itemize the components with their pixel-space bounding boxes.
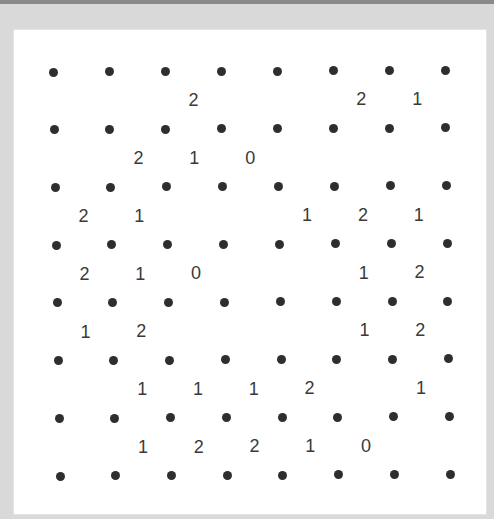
puzzle-cell[interactable]: 1: [183, 377, 213, 401]
puzzle-cell[interactable]: 2: [126, 319, 156, 343]
puzzle-cell[interactable]: 2: [68, 204, 98, 228]
puzzle-cell[interactable]: [291, 145, 321, 169]
grid-dot: [334, 470, 343, 479]
grid-dot: [388, 297, 397, 306]
puzzle-cell[interactable]: 2: [184, 435, 214, 459]
grid-dot: [390, 470, 399, 479]
grid-dot: [386, 181, 395, 190]
puzzle-cell[interactable]: [66, 89, 96, 113]
grid-dot: [50, 125, 59, 134]
puzzle-cell[interactable]: 2: [346, 87, 376, 111]
grid-dot: [219, 240, 228, 249]
grid-dot: [164, 298, 173, 307]
puzzle-cell[interactable]: 2: [294, 376, 324, 400]
puzzle-cell[interactable]: 0: [181, 261, 211, 285]
grid-dot: [222, 413, 231, 422]
grid-dot: [442, 181, 451, 190]
grid-dot: [332, 297, 341, 306]
puzzle-cell[interactable]: [180, 204, 210, 228]
puzzle-cell[interactable]: [182, 319, 212, 343]
puzzle-cell[interactable]: [237, 261, 267, 285]
grid-dot: [385, 124, 394, 133]
grid-dot: [109, 356, 118, 365]
puzzle-cell[interactable]: 1: [70, 320, 100, 344]
puzzle-cell[interactable]: [407, 434, 437, 458]
grid-dot: [49, 68, 58, 77]
grid-dot: [105, 67, 114, 76]
puzzle-board[interactable]: 221210211212101212121112112210: [14, 30, 486, 514]
puzzle-cell[interactable]: [403, 145, 433, 169]
puzzle-cell[interactable]: 1: [406, 376, 436, 400]
puzzle-cell[interactable]: 2: [405, 260, 435, 284]
grid-dot: [221, 355, 230, 364]
puzzle-cell[interactable]: 1: [239, 377, 269, 401]
puzzle-cell[interactable]: 1: [404, 203, 434, 227]
puzzle-cell[interactable]: [234, 88, 264, 112]
grid-dot: [446, 470, 455, 479]
puzzle-cell[interactable]: 1: [349, 261, 379, 285]
puzzle-cell[interactable]: 1: [402, 87, 432, 111]
grid-dot: [56, 472, 65, 481]
puzzle-cell[interactable]: 2: [69, 262, 99, 286]
grid-dot: [389, 412, 398, 421]
puzzle-cell[interactable]: 1: [125, 262, 155, 286]
grid-dot: [275, 240, 284, 249]
grid-dot: [385, 66, 394, 75]
grid-dot: [111, 471, 120, 480]
grid-dot: [332, 355, 341, 364]
grid-dot: [277, 355, 286, 364]
grid-dot: [107, 240, 116, 249]
grid-dot: [223, 471, 232, 480]
puzzle-cell[interactable]: 2: [178, 88, 208, 112]
grid-dot: [278, 413, 287, 422]
grid-dot: [162, 182, 171, 191]
grid-dot: [388, 355, 397, 364]
grid-dot: [53, 298, 62, 307]
grid-dot: [55, 414, 64, 423]
puzzle-cell[interactable]: 2: [240, 434, 270, 458]
puzzle-cell[interactable]: [294, 319, 324, 343]
grid-dot: [161, 67, 170, 76]
grid-dot: [110, 414, 119, 423]
grid-dot: [331, 239, 340, 248]
grid-dot: [445, 412, 454, 421]
grid-dot: [105, 125, 114, 134]
grid-dot: [441, 123, 450, 132]
grid-dot: [276, 297, 285, 306]
puzzle-cell[interactable]: 1: [179, 146, 209, 170]
puzzle-cell[interactable]: 1: [124, 204, 154, 228]
grid-dot: [443, 239, 452, 248]
grid-dot: [217, 124, 226, 133]
puzzle-cell[interactable]: [236, 203, 266, 227]
puzzle-cell[interactable]: [67, 146, 97, 170]
grid-dot: [163, 240, 172, 249]
grid-dot: [444, 354, 453, 363]
puzzle-cell[interactable]: [122, 88, 152, 112]
puzzle-cell[interactable]: 2: [405, 318, 435, 342]
grid-dot: [441, 66, 450, 75]
puzzle-cell[interactable]: [238, 319, 268, 343]
grid-dot: [387, 239, 396, 248]
puzzle-cell[interactable]: 1: [349, 318, 379, 342]
puzzle-cell[interactable]: [290, 88, 320, 112]
puzzle-cell[interactable]: 1: [128, 435, 158, 459]
puzzle-cell[interactable]: [72, 435, 102, 459]
grid-dot: [166, 413, 175, 422]
grid-dot: [106, 183, 115, 192]
window-top-edge: [0, 0, 494, 4]
puzzle-cell[interactable]: 1: [292, 203, 322, 227]
puzzle-cell[interactable]: [71, 377, 101, 401]
puzzle-cell[interactable]: 0: [235, 146, 265, 170]
grid-dot: [54, 356, 63, 365]
puzzle-cell[interactable]: 2: [348, 203, 378, 227]
puzzle-cell[interactable]: 2: [123, 146, 153, 170]
puzzle-cell[interactable]: [350, 376, 380, 400]
puzzle-cell[interactable]: 0: [351, 434, 381, 458]
puzzle-cell[interactable]: 1: [127, 377, 157, 401]
puzzle-cell[interactable]: [347, 145, 377, 169]
grid-dot: [333, 413, 342, 422]
puzzle-cell[interactable]: [293, 261, 323, 285]
puzzle-cell[interactable]: 1: [295, 434, 325, 458]
grid-dot: [329, 66, 338, 75]
grid-dot: [218, 182, 227, 191]
